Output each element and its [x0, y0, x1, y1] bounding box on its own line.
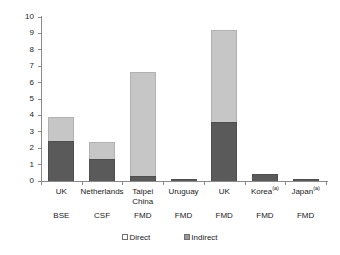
y-axis-tick-label: 5 — [30, 94, 34, 104]
x-axis-tick-mark — [122, 181, 123, 185]
y-axis-tick: 4 — [0, 110, 41, 120]
x-axis-label-line: UK — [56, 187, 67, 196]
x-axis-tick-mark — [285, 181, 286, 185]
x-axis-tick-mark — [163, 181, 164, 185]
x-axis-tick-mark — [82, 181, 83, 185]
bar-segment-direct[interactable] — [48, 141, 74, 181]
bar-segment-indirect[interactable] — [89, 142, 115, 158]
x-axis-tick-mark — [204, 181, 205, 185]
bar-segment-direct[interactable] — [130, 176, 156, 181]
y-axis-tick-label: 8 — [30, 45, 34, 55]
bar-segment-indirect[interactable] — [130, 72, 156, 176]
x-axis-label-footnote: (a) — [313, 185, 320, 191]
y-axis-tick: 6 — [0, 78, 41, 88]
x-axis-tick-mark — [326, 181, 327, 185]
x-axis-label: Japan(a) — [271, 187, 340, 197]
legend-label: Indirect — [191, 233, 217, 242]
y-axis-tick-label: 4 — [30, 110, 34, 120]
x-axis-label-line: UK — [219, 187, 230, 196]
y-axis-tick-label: 3 — [30, 127, 34, 137]
bar-segment-direct[interactable] — [211, 122, 237, 181]
y-axis-tick-label: 9 — [30, 28, 34, 38]
legend-item[interactable]: Indirect — [184, 233, 217, 242]
bar-segment-indirect[interactable] — [211, 30, 237, 122]
y-axis-tick-label: 2 — [30, 143, 34, 153]
y-axis-tick: 3 — [0, 127, 41, 137]
legend-item[interactable]: Direct — [122, 233, 150, 242]
y-axis-tick: 1 — [0, 160, 41, 170]
legend-swatch-direct — [122, 234, 128, 240]
y-axis-tick: 10 — [0, 12, 41, 22]
bar-group[interactable] — [293, 179, 319, 181]
bar-group[interactable] — [171, 179, 197, 181]
y-axis-tick-label: 10 — [25, 12, 34, 22]
bar-segment-direct[interactable] — [89, 159, 115, 181]
y-axis-tick-label: 1 — [30, 160, 34, 170]
x-axis-tick-mark — [245, 181, 246, 185]
bar-segment-direct[interactable] — [293, 179, 319, 181]
bar-segment-indirect[interactable] — [48, 117, 74, 141]
legend-swatch-indirect — [184, 234, 190, 240]
chart-legend: DirectIndirect — [0, 230, 340, 244]
y-axis-tick-label: 6 — [30, 78, 34, 88]
y-axis-tick: 9 — [0, 28, 41, 38]
y-axis-tick: 8 — [0, 45, 41, 55]
bar-segment-direct[interactable] — [252, 174, 278, 181]
x-axis-label-line: Japan — [291, 187, 313, 196]
bar-group[interactable] — [89, 142, 115, 181]
x-axis-label-line: China — [108, 197, 178, 207]
bar-group[interactable] — [252, 174, 278, 181]
bar-group[interactable] — [48, 117, 74, 181]
x-axis-sublabel: FMD — [271, 211, 340, 221]
x-axis-tick-mark — [41, 181, 42, 185]
y-axis-tick: 2 — [0, 143, 41, 153]
bar-group[interactable] — [211, 30, 237, 181]
y-axis-tick: 7 — [0, 61, 41, 71]
legend-label: Direct — [129, 233, 150, 242]
bar-segment-direct[interactable] — [171, 179, 197, 181]
bar-group[interactable] — [130, 72, 156, 181]
bar-chart: US$ billion 109876543210 UKNetherlandsTa… — [0, 0, 340, 255]
plot-area — [41, 17, 326, 181]
x-axis-label-line: Korea — [251, 187, 272, 196]
y-axis-tick-label: 0 — [30, 176, 34, 186]
y-axis-tick-label: 7 — [30, 61, 34, 71]
y-axis-tick: 0 — [0, 176, 41, 186]
y-axis-tick: 5 — [0, 94, 41, 104]
